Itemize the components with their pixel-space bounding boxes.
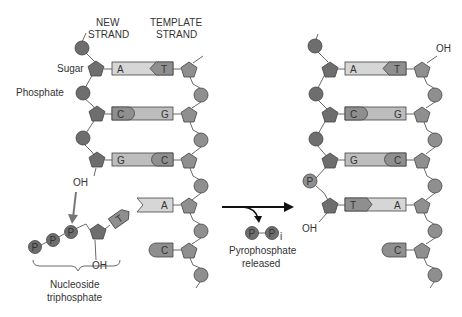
base-pair-a-t: A T: [104, 62, 181, 75]
base-pair-t-a-after: T A: [338, 198, 414, 211]
sugar-pentagon: [414, 153, 430, 168]
oh-left-label: OH: [73, 177, 88, 188]
svg-text:A: A: [350, 64, 357, 75]
sugar-pentagon: [181, 243, 197, 258]
phosphate-circle: [194, 133, 208, 147]
template-strand-label-1: TEMPLATE: [150, 17, 202, 28]
base-pair-g-c: G C: [105, 153, 181, 166]
nucleoside-label-2: triphosphate: [47, 292, 102, 303]
phosphate-circle: [428, 88, 442, 102]
svg-text:T: T: [161, 64, 167, 75]
phosphate-circle: [308, 39, 322, 53]
svg-text:T: T: [394, 64, 400, 75]
sugar-pentagon: [88, 61, 104, 76]
phosphate-circle: [428, 268, 442, 282]
svg-text:C: C: [394, 155, 401, 166]
svg-text:A: A: [394, 200, 401, 211]
sugar-pentagon: [322, 153, 338, 168]
nucleoside-triphosphate: P P P OH T: [29, 207, 133, 271]
svg-text:A: A: [117, 64, 124, 75]
oh-right-top-label: OH: [436, 43, 451, 54]
sugar-pentagon: [181, 62, 197, 77]
pyrophosphate-label-1: Pyrophosphate: [229, 245, 297, 256]
oh-nucleotide-label: OH: [92, 260, 107, 271]
phosphate-circle: [194, 224, 208, 238]
attack-arrow: [73, 192, 76, 218]
svg-text:G: G: [161, 109, 169, 120]
unpaired-template-a: A: [137, 198, 181, 212]
svg-text:A: A: [161, 200, 168, 211]
sugar-pentagon: [414, 198, 430, 213]
svg-text:C: C: [350, 109, 357, 120]
dna-replication-diagram: NEW STRAND TEMPLATE STRAND Sugar Phospha…: [0, 0, 462, 317]
phosphate-circle: [428, 224, 442, 238]
phosphate-circle: [194, 268, 208, 282]
sugar-pentagon: [322, 107, 338, 122]
oh-right-bottom-label: OH: [302, 223, 317, 234]
sugar-pentagon: [414, 107, 430, 122]
sugar-pentagon: [414, 62, 430, 77]
reaction-arrow: [222, 202, 294, 223]
svg-text:P: P: [50, 235, 57, 246]
base-pair-c-g: C G: [105, 107, 181, 120]
phosphate-circle: [428, 133, 442, 147]
phosphate-circle: [194, 179, 208, 193]
arrow-head-icon: [254, 216, 262, 223]
new-strand-label-2: STRAND: [88, 29, 129, 40]
pyrophosphate-label-2: released: [242, 258, 280, 269]
svg-text:T: T: [350, 200, 356, 211]
new-strand-label-1: NEW: [96, 17, 120, 28]
svg-text:P: P: [32, 242, 39, 253]
phosphate-circle: [76, 131, 90, 145]
pyrophosphate: P P i: [246, 227, 283, 243]
template-strand-label-2: STRAND: [156, 29, 197, 40]
sugar-pentagon: [89, 152, 105, 167]
phosphate-circle: [75, 41, 89, 55]
sugar-pentagon: [89, 106, 105, 121]
base-pair-c-g-after: C G: [338, 107, 414, 120]
svg-text:C: C: [394, 245, 401, 256]
phosphate-circle: [309, 87, 323, 101]
svg-text:G: G: [350, 155, 358, 166]
svg-text:C: C: [117, 109, 124, 120]
phosphate-label: Phosphate: [16, 87, 64, 98]
svg-text:P: P: [249, 228, 256, 239]
svg-text:C: C: [161, 155, 168, 166]
arrow-head-icon: [68, 214, 78, 224]
sugar-pentagon: [322, 62, 338, 77]
base-pair-g-c-after: G C: [338, 153, 414, 166]
base-pair-a-t-after: A T: [338, 62, 414, 75]
svg-text:P: P: [269, 228, 276, 239]
sugar-pentagon: [414, 243, 430, 258]
phosphate-circle: [309, 132, 323, 146]
unpaired-template-c: C: [149, 243, 181, 257]
sugar-pentagon: [181, 107, 197, 122]
svg-text:i: i: [280, 231, 282, 242]
phosphate-circle: [76, 86, 90, 100]
svg-text:C: C: [161, 245, 168, 256]
phosphate-circle: [194, 88, 208, 102]
sugar-pentagon: [181, 198, 197, 213]
svg-text:G: G: [394, 109, 402, 120]
nucleoside-label-1: Nucleoside: [50, 279, 100, 290]
unpaired-template-c-after: C: [382, 243, 414, 257]
phosphate-circle: [428, 179, 442, 193]
new-strand-backbone-right: [315, 34, 328, 222]
svg-text:G: G: [117, 155, 125, 166]
sugar-pentagon: [322, 198, 338, 213]
sugar-label: Sugar: [57, 63, 84, 74]
sugar-pentagon: [181, 153, 197, 168]
svg-text:P: P: [307, 176, 314, 187]
svg-text:P: P: [68, 227, 75, 238]
